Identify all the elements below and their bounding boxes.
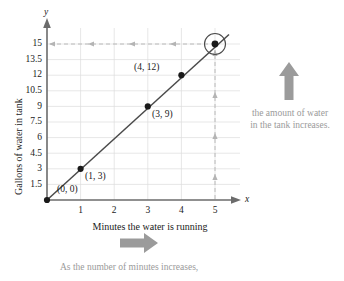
point-3-9	[145, 103, 151, 109]
y-tick-label: 15	[20, 39, 42, 49]
point-label-4-12: (4, 12)	[134, 63, 159, 73]
x-axis-title: Minutes the water is running	[55, 222, 245, 232]
arrow-right-icon	[120, 233, 158, 253]
point-0-0	[44, 197, 50, 203]
x-tick-label: 3	[138, 206, 158, 216]
y-axis-variable-label: y	[44, 8, 48, 18]
annotation-water-increases-line1: the amount of water	[242, 108, 338, 120]
x-tick-label: 5	[205, 206, 225, 216]
y-tick-label: 13.5	[16, 55, 42, 65]
point-label-3-9: (3, 9)	[152, 110, 173, 120]
arrow-up-icon	[279, 62, 299, 100]
point-1-3	[78, 166, 84, 172]
y-axis	[43, 18, 51, 200]
point-label-0-0: (0, 0)	[57, 185, 78, 195]
graph-figure: 15 13.5 12 10.5 9 7.5 6 4.5 3 1.5 1 2 3 …	[0, 0, 344, 281]
annotation-water-increases-line2: in the tank increases.	[242, 120, 338, 132]
coordinate-plane	[0, 0, 344, 281]
y-axis-title: Gallons of water in tank	[14, 98, 24, 195]
x-tick-label: 2	[104, 206, 124, 216]
x-tick-label: 4	[171, 206, 191, 216]
annotation-minutes-increase: As the number of minutes increases,	[60, 262, 198, 274]
x-axis-variable-label: x	[245, 195, 249, 205]
y-tick-label: 12	[20, 70, 42, 80]
x-tick-label: 1	[71, 206, 91, 216]
y-tick-label: 10.5	[16, 86, 42, 96]
point-label-1-3: (1, 3)	[85, 172, 106, 182]
x-axis	[47, 196, 241, 204]
horizontal-guide-to-y15	[49, 41, 215, 46]
point-5-15	[212, 41, 219, 48]
point-4-12	[178, 72, 184, 78]
